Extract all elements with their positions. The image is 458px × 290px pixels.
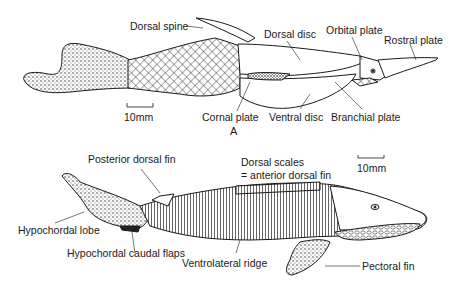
- label-ventrolateral-ridge: Ventrolateral ridge: [182, 257, 267, 269]
- label-cornal-plate: Cornal plate: [202, 111, 259, 123]
- label-dorsal-spine: Dorsal spine: [130, 20, 188, 32]
- label-dorsal-scales-line1: Dorsal scales: [241, 156, 304, 168]
- label-hypochordal-caudal-flaps: Hypochordal caudal flaps: [67, 247, 185, 259]
- label-posterior-dorsal-fin: Posterior dorsal fin: [88, 153, 176, 165]
- label-pectoral-fin: Pectoral fin: [362, 260, 415, 272]
- figure-a-letter: A: [230, 125, 237, 137]
- label-ventral-disc: Ventral disc: [269, 111, 323, 123]
- scale-bar-b-label: 10mm: [357, 162, 386, 174]
- label-hypochordal-lobe: Hypochordal lobe: [18, 224, 100, 236]
- label-dorsal-disc: Dorsal disc: [264, 28, 316, 40]
- label-dorsal-scales-line2: = anterior dorsal fin: [241, 169, 331, 181]
- label-rostral-plate: Rostral plate: [384, 34, 443, 46]
- diagram-canvas: Dorsal spine Dorsal disc Orbital plate R…: [0, 0, 458, 290]
- scale-bar-a-label: 10mm: [124, 111, 153, 123]
- label-branchial-plate: Branchial plate: [331, 111, 400, 123]
- label-orbital-plate: Orbital plate: [326, 24, 383, 36]
